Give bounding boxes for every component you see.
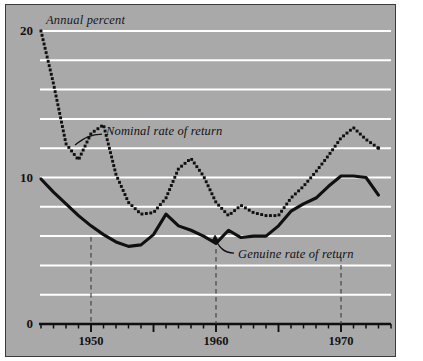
y-axis-label-10: 10 [6,170,33,186]
y-axis-label-0: 0 [6,316,33,332]
plot-area [6,5,395,356]
annotation-genuine-rate-of-return: Genuine rate of return [238,247,354,262]
annotation-nominal-rate-of-return: Nominal rate of return [106,124,222,139]
chart-panel: Annual percent 20 10 0 1950 1960 1970 No… [5,4,396,357]
chart-figure: Annual percent 20 10 0 1950 1960 1970 No… [0,0,423,361]
x-axis-label-1960: 1960 [176,334,256,349]
x-axis-label-1950: 1950 [51,334,131,349]
x-axis-label-1970: 1970 [301,334,381,349]
y-axis-label-20: 20 [6,23,33,39]
